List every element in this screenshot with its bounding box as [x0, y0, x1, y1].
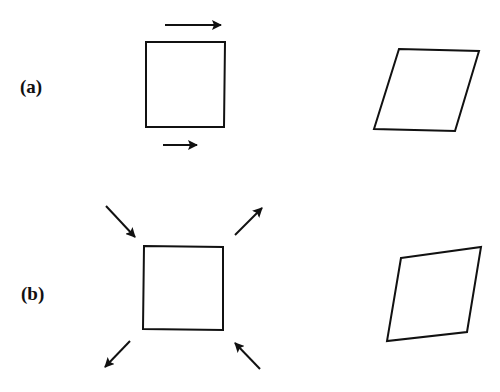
bottom-right-compression-arrow-icon: [235, 343, 260, 369]
diagram-canvas: [0, 0, 500, 392]
panel-b: [105, 206, 481, 369]
top-right-tension-arrow-icon: [235, 208, 262, 235]
panel-a-square: [146, 42, 225, 127]
panel-b-rhombus: [387, 247, 481, 341]
panel-a-parallelogram: [374, 49, 479, 131]
top-left-compression-arrow-icon: [106, 206, 135, 237]
panel-b-square: [143, 246, 223, 330]
bottom-left-tension-arrow-icon: [105, 341, 130, 367]
panel-a: [146, 25, 479, 145]
panel-b-arrows: [105, 206, 262, 369]
